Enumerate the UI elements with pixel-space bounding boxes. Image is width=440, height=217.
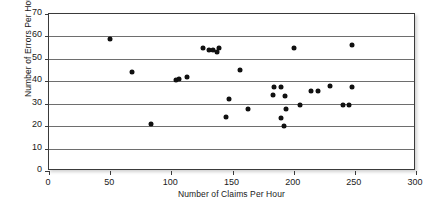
x-tick-label: 50	[89, 178, 129, 187]
data-point	[224, 115, 228, 119]
y-tick-label: 60	[8, 30, 42, 39]
data-point	[298, 103, 302, 107]
data-point	[292, 46, 296, 50]
x-tick-mark	[110, 171, 111, 175]
gridline-y	[49, 81, 414, 82]
data-point	[130, 70, 134, 74]
y-tick-mark	[45, 149, 49, 150]
y-tick-mark	[45, 36, 49, 37]
x-tick-mark	[233, 171, 234, 175]
x-tick-mark	[49, 171, 50, 175]
x-axis-title: Number of Claims Per Hour	[48, 189, 415, 199]
y-tick-label: 30	[8, 98, 42, 107]
data-point	[316, 89, 320, 93]
y-tick-mark	[45, 104, 49, 105]
x-tick-mark	[355, 171, 356, 175]
data-point	[238, 68, 242, 72]
gridline-y	[49, 59, 414, 60]
y-tick-mark	[45, 81, 49, 82]
x-tick-label: 0	[28, 178, 68, 187]
data-point	[283, 94, 287, 98]
data-point	[246, 107, 250, 111]
data-point	[272, 85, 276, 89]
gridline-y	[49, 126, 414, 127]
y-tick-mark	[45, 14, 49, 15]
data-point	[177, 77, 181, 81]
data-point	[271, 93, 275, 97]
data-point	[227, 97, 231, 101]
data-point	[341, 103, 345, 107]
x-tick-mark	[171, 171, 172, 175]
gridline-y	[49, 36, 414, 37]
x-tick-label: 200	[273, 178, 313, 187]
data-point	[350, 43, 354, 47]
y-tick-label: 0	[8, 165, 42, 174]
data-point	[309, 89, 313, 93]
data-point	[279, 116, 283, 120]
data-point	[350, 85, 354, 89]
x-tick-label: 300	[395, 178, 435, 187]
data-point	[282, 124, 286, 128]
x-tick-mark	[294, 171, 295, 175]
scatter-chart-figure: Number of Errors Per Hour Number of Clai…	[0, 0, 440, 217]
data-point	[149, 122, 153, 126]
data-point	[217, 46, 221, 50]
data-point	[284, 107, 288, 111]
x-tick-label: 150	[212, 178, 252, 187]
y-tick-label: 70	[8, 8, 42, 17]
y-tick-label: 10	[8, 143, 42, 152]
data-point	[279, 85, 283, 89]
data-point	[328, 84, 332, 88]
y-tick-label: 50	[8, 53, 42, 62]
data-point	[108, 37, 112, 41]
gridline-y	[49, 149, 414, 150]
x-tick-mark	[416, 171, 417, 175]
data-point	[215, 50, 219, 54]
y-tick-mark	[45, 59, 49, 60]
y-tick-mark	[45, 126, 49, 127]
y-tick-label: 20	[8, 120, 42, 129]
data-point	[185, 75, 189, 79]
x-tick-label: 100	[150, 178, 190, 187]
gridline-y	[49, 104, 414, 105]
plot-area	[48, 13, 415, 170]
data-point	[347, 103, 351, 107]
data-point	[201, 46, 205, 50]
y-tick-label: 40	[8, 75, 42, 84]
x-tick-label: 250	[334, 178, 374, 187]
